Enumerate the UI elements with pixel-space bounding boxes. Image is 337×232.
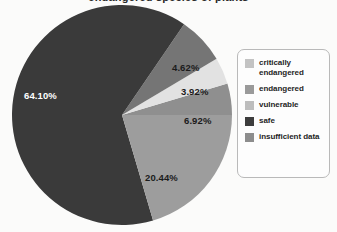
legend-item[interactable]: endangered <box>245 84 329 94</box>
legend-swatch-icon <box>245 85 254 94</box>
legend-items: critically endangeredendangeredvulnerabl… <box>245 58 329 142</box>
pie-slice-value-label: 6.92% <box>184 115 211 126</box>
legend-swatch-icon <box>245 101 254 110</box>
legend-item[interactable]: vulnerable <box>245 100 329 110</box>
legend-swatch-icon <box>245 117 254 126</box>
legend-swatch-icon <box>245 133 254 142</box>
pie-slice-value-label: 4.62% <box>172 62 199 73</box>
legend-item-label: endangered <box>259 84 304 94</box>
pie-slice-value-label: 64.10% <box>24 90 57 101</box>
pie-slice-value-label: 3.92% <box>181 86 208 97</box>
legend-item-label: insufficient data <box>259 132 320 142</box>
pie-chart-figure: endangered species of plants 4.62%3.92%6… <box>0 0 337 232</box>
legend-item[interactable]: insufficient data <box>245 132 329 142</box>
legend-item-label: vulnerable <box>259 100 299 110</box>
legend-item-label: safe <box>259 116 275 126</box>
pie-slice-value-label: 20.44% <box>145 172 178 183</box>
legend-item-label: critically endangered <box>259 58 329 78</box>
chart-legend: critically endangeredendangeredvulnerabl… <box>237 49 330 178</box>
legend-swatch-icon <box>245 59 254 68</box>
legend-item[interactable]: critically endangered <box>245 58 329 78</box>
pie-chart: 4.62%3.92%6.92%20.44%64.10% <box>12 2 234 228</box>
legend-item[interactable]: safe <box>245 116 329 126</box>
